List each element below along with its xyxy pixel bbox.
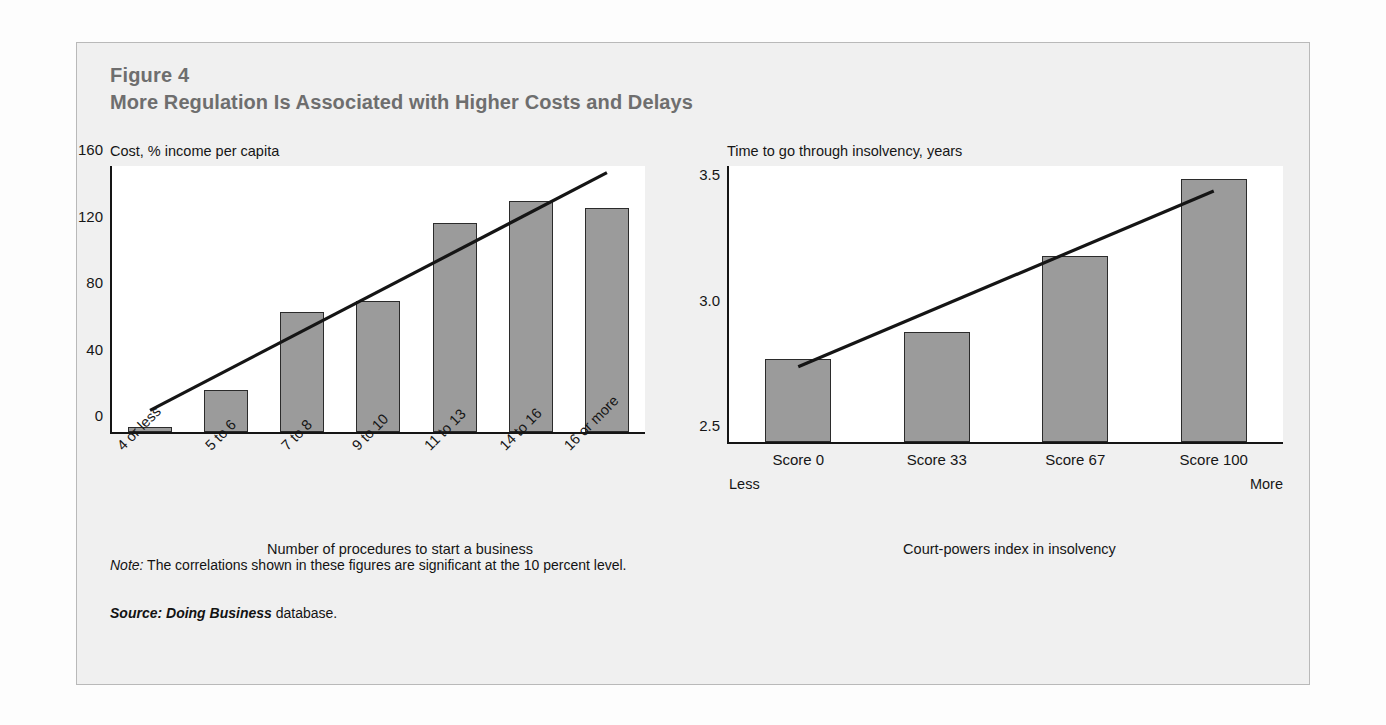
chart-left-trendline: [110, 166, 645, 434]
chart-left-xtick-slot: 5 to 6: [188, 434, 264, 520]
source-italic-title: Doing Business: [162, 605, 272, 621]
chart-left-xtick-slot: 4 or less: [112, 434, 188, 520]
note-text: The correlations shown in these figures …: [143, 557, 626, 573]
endpoint-label-less: Less: [729, 476, 760, 492]
chart-right-trendline: [727, 166, 1283, 444]
chart-panel-insolvency: Time to go through insolvency, years 2.5…: [727, 143, 1292, 444]
figure-note: Note: The correlations shown in these fi…: [110, 557, 626, 573]
figure-header: Figure 4 More Regulation Is Associated w…: [110, 63, 693, 115]
chart-right-ytick-label: 3.5: [699, 166, 727, 183]
chart-left-ytick-label: 40: [86, 340, 110, 357]
figure-number: Figure 4: [110, 63, 693, 88]
chart-panel-cost: Cost, % income per capita 04080120160 4 …: [110, 143, 690, 434]
chart-left-ytick-label: 80: [86, 274, 110, 291]
chart-left-xtick-slot: 16 or more: [569, 434, 645, 520]
chart-right-xtick-label: Score 100: [1145, 451, 1284, 468]
chart-right-xtick-group: Score 0Score 33Score 67Score 100: [729, 444, 1283, 468]
chart-right-ylabel: Time to go through insolvency, years: [727, 143, 1292, 159]
chart-left-ytick-label: 160: [78, 141, 110, 158]
figure-source: Source: Doing Business database.: [110, 605, 337, 621]
chart-right-ytick-label: 2.5: [699, 417, 727, 434]
chart-right-plot-area: 2.53.03.5 Score 0Score 33Score 67Score 1…: [727, 166, 1283, 444]
chart-left-ytick-label: 120: [78, 207, 110, 224]
chart-left-xtick-group: 4 or less5 to 67 to 89 to 1011 to 1314 t…: [112, 434, 645, 520]
chart-right-ytick-label: 3.0: [699, 291, 727, 308]
note-label: Note:: [110, 557, 143, 573]
chart-left-xtick-slot: 14 to 16: [493, 434, 569, 520]
chart-left-xtick-slot: 9 to 10: [340, 434, 416, 520]
chart-left-ylabel: Cost, % income per capita: [110, 143, 690, 159]
source-label: Source:: [110, 605, 162, 621]
endpoint-label-more: More: [1250, 476, 1283, 492]
chart-left-plot-area: 04080120160 4 or less5 to 67 to 89 to 10…: [110, 166, 645, 434]
chart-right-endpoint-labels: Less More: [729, 476, 1283, 492]
chart-right-xtick-label: Score 0: [729, 451, 868, 468]
figure-container: Figure 4 More Regulation Is Associated w…: [76, 42, 1310, 685]
chart-right-xtick-label: Score 33: [868, 451, 1007, 468]
chart-left-ytick-label: 0: [95, 407, 110, 424]
chart-left-xtick-slot: 11 to 13: [417, 434, 493, 520]
chart-left-xlabel: Number of procedures to start a business: [110, 541, 690, 557]
figure-title: More Regulation Is Associated with Highe…: [110, 90, 693, 115]
chart-right-xtick-label: Score 67: [1006, 451, 1145, 468]
source-text: database.: [272, 605, 337, 621]
chart-right-xlabel: Court-powers index in insolvency: [727, 541, 1292, 557]
chart-left-xtick-slot: 7 to 8: [264, 434, 340, 520]
